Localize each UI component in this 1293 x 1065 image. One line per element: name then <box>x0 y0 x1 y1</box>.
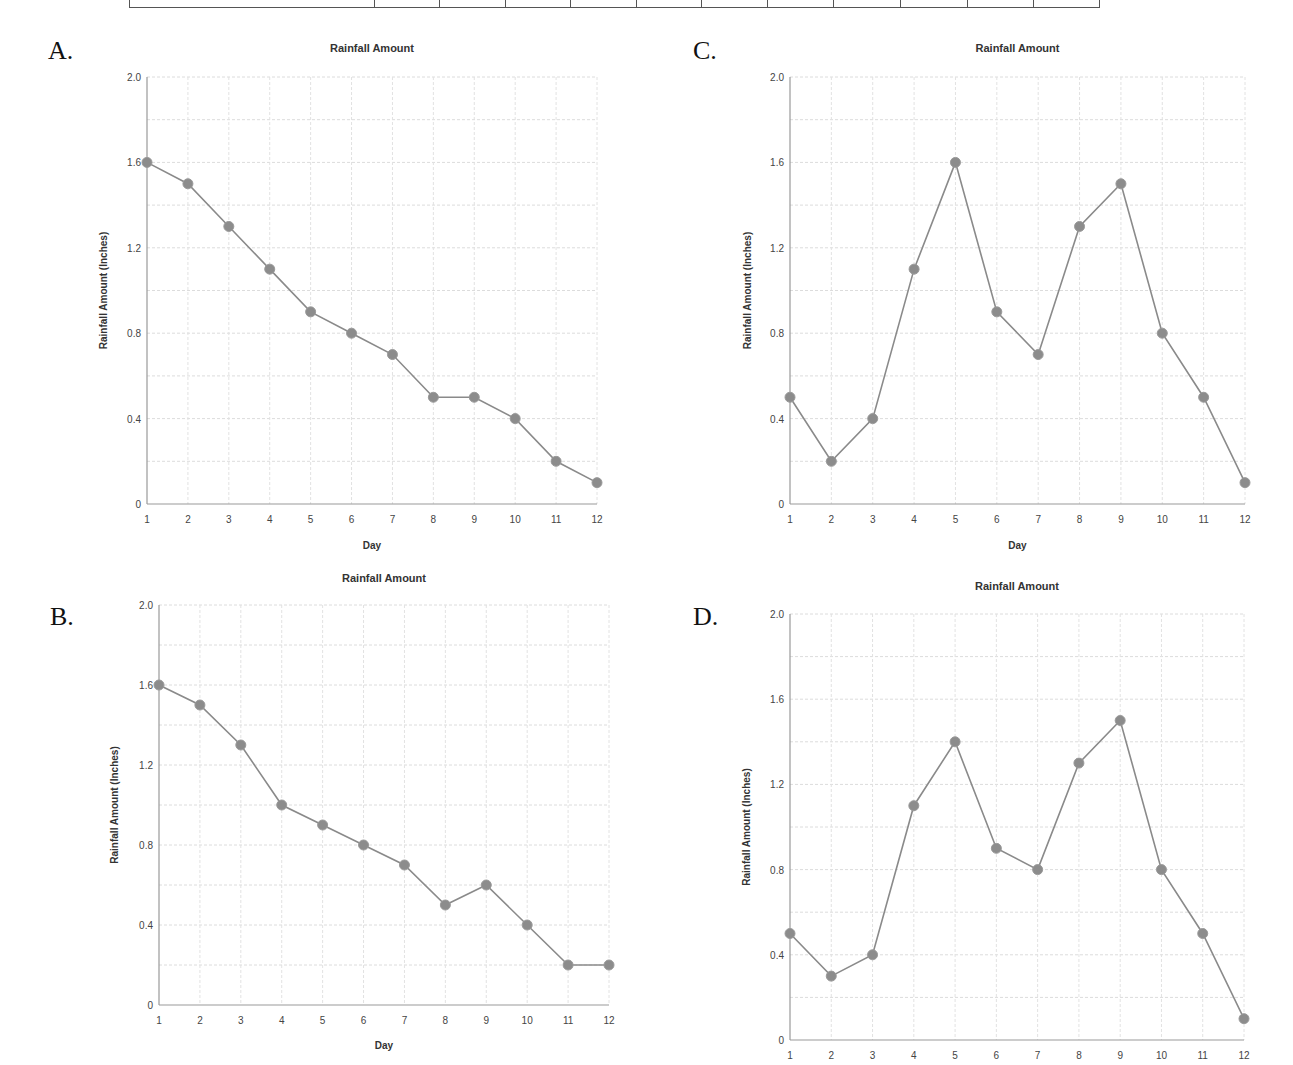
x-tick-label: 3 <box>870 1050 876 1061</box>
y-tick-label: 0.8 <box>139 840 153 851</box>
grid <box>790 614 1244 1040</box>
grid <box>147 77 597 504</box>
chart-b: 00.40.81.21.62.0123456789101112Rainfall … <box>100 568 630 1058</box>
data-point <box>551 456 561 466</box>
data-point <box>440 900 450 910</box>
data-point <box>592 478 602 488</box>
y-tick-label: 0 <box>778 499 784 510</box>
x-tick-label: 4 <box>267 514 273 525</box>
chart-title: Rainfall Amount <box>975 580 1059 592</box>
x-tick-label: 12 <box>591 514 603 525</box>
table-cell <box>701 0 767 7</box>
data-point <box>1075 221 1085 231</box>
data-point <box>1033 865 1043 875</box>
y-tick-label: 0 <box>147 1000 153 1011</box>
y-tick-label: 2.0 <box>139 600 153 611</box>
data-point <box>785 392 795 402</box>
x-tick-label: 3 <box>238 1015 244 1026</box>
table-cell <box>833 0 900 7</box>
x-tick-label: 12 <box>1238 1050 1250 1061</box>
x-tick-label: 10 <box>522 1015 534 1026</box>
x-tick-label: 8 <box>1076 1050 1082 1061</box>
data-point <box>563 960 573 970</box>
chart-title: Rainfall Amount <box>976 42 1060 54</box>
y-tick-label: 0 <box>778 1035 784 1046</box>
data-point <box>428 392 438 402</box>
data-point <box>1156 865 1166 875</box>
x-tick-label: 9 <box>1117 1050 1123 1061</box>
x-tick-label: 7 <box>1035 514 1041 525</box>
data-point <box>785 929 795 939</box>
table-cell <box>505 0 570 7</box>
x-tick-label: 9 <box>1118 514 1124 525</box>
x-tick-label: 3 <box>226 514 232 525</box>
y-tick-label: 1.6 <box>127 157 141 168</box>
chart-a: 00.40.81.21.62.0123456789101112Rainfall … <box>92 38 622 558</box>
data-point <box>347 328 357 338</box>
data-point <box>224 221 234 231</box>
data-point <box>909 264 919 274</box>
y-tick-label: 0.8 <box>770 865 784 876</box>
x-tick-label: 4 <box>279 1015 285 1026</box>
x-tick-label: 6 <box>994 514 1000 525</box>
y-tick-label: 1.2 <box>139 760 153 771</box>
x-tick-label: 1 <box>144 514 150 525</box>
x-tick-label: 1 <box>787 1050 793 1061</box>
y-tick-label: 0.8 <box>770 328 784 339</box>
y-axis-label: Rainfall Amount (Inches) <box>98 232 109 349</box>
table-cell <box>570 0 636 7</box>
y-tick-label: 0.4 <box>127 414 141 425</box>
data-point <box>1116 179 1126 189</box>
table-cell <box>374 0 439 7</box>
data-point <box>1198 929 1208 939</box>
data-point <box>1199 392 1209 402</box>
x-tick-label: 9 <box>483 1015 489 1026</box>
x-tick-label: 4 <box>911 514 917 525</box>
data-point <box>481 880 491 890</box>
chart-title: Rainfall Amount <box>342 572 426 584</box>
y-tick-label: 1.2 <box>770 779 784 790</box>
chart-c: 00.40.81.21.62.0123456789101112Rainfall … <box>735 38 1265 558</box>
panel-label-b: B. <box>50 602 74 632</box>
x-tick-label: 5 <box>953 514 959 525</box>
data-point <box>510 414 520 424</box>
y-tick-label: 0 <box>135 499 141 510</box>
data-point <box>1239 1014 1249 1024</box>
x-tick-label: 11 <box>551 514 562 525</box>
x-tick-label: 7 <box>402 1015 408 1026</box>
x-tick-label: 11 <box>563 1015 574 1026</box>
data-point <box>265 264 275 274</box>
y-tick-label: 0.4 <box>139 920 153 931</box>
x-tick-label: 8 <box>443 1015 449 1026</box>
data-point <box>142 157 152 167</box>
data-point <box>604 960 614 970</box>
x-tick-label: 2 <box>828 1050 834 1061</box>
top-data-table-edge <box>129 0 1100 8</box>
x-tick-label: 1 <box>156 1015 162 1026</box>
data-point <box>992 307 1002 317</box>
data-point <box>183 179 193 189</box>
data-point <box>399 860 409 870</box>
y-axis-label: Rainfall Amount (Inches) <box>741 768 752 885</box>
x-tick-label: 8 <box>1077 514 1083 525</box>
table-cell <box>900 0 967 7</box>
data-point <box>154 680 164 690</box>
data-point <box>277 800 287 810</box>
y-axis-label: Rainfall Amount (Inches) <box>742 232 753 349</box>
grid <box>159 605 609 1005</box>
x-tick-label: 5 <box>952 1050 958 1061</box>
x-tick-label: 9 <box>471 514 477 525</box>
x-tick-label: 4 <box>911 1050 917 1061</box>
table-cell <box>967 0 1033 7</box>
x-tick-label: 6 <box>994 1050 1000 1061</box>
x-axis-label: Day <box>1008 540 1027 551</box>
data-point <box>306 307 316 317</box>
x-tick-label: 11 <box>1198 1050 1209 1061</box>
data-point <box>1157 328 1167 338</box>
x-tick-label: 7 <box>1035 1050 1041 1061</box>
y-tick-label: 1.2 <box>127 243 141 254</box>
table-cell <box>1033 0 1099 7</box>
table-cell <box>636 0 701 7</box>
data-point <box>236 740 246 750</box>
data-point <box>991 843 1001 853</box>
